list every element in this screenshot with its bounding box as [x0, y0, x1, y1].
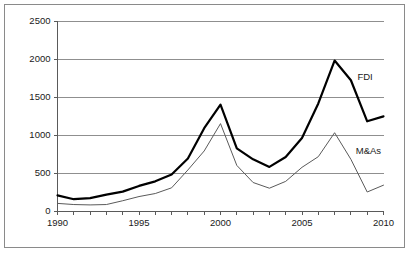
x-axis-tick-label-1990: 1990 — [38, 218, 78, 228]
y-axis-tick-label-0: 0 — [0, 206, 51, 216]
y-axis-tick-label-2500: 2500 — [0, 16, 51, 26]
chart-figure: 0500100015002000250019901995200020052010… — [0, 0, 410, 253]
y-axis-tick-label-1500: 1500 — [0, 92, 51, 102]
y-axis-tick-label-500: 500 — [0, 168, 51, 178]
series-label-m-as: M&As — [356, 146, 381, 156]
figure-border — [4, 4, 405, 248]
y-axis-tick-label-2000: 2000 — [0, 54, 51, 64]
x-axis-tick-label-1995: 1995 — [119, 218, 159, 228]
x-axis-tick-label-2005: 2005 — [282, 218, 322, 228]
x-axis-tick-label-2000: 2000 — [201, 218, 241, 228]
x-axis-tick-label-2010: 2010 — [364, 218, 404, 228]
y-axis-tick-label-1000: 1000 — [0, 130, 51, 140]
series-label-fdi: FDI — [357, 72, 372, 82]
